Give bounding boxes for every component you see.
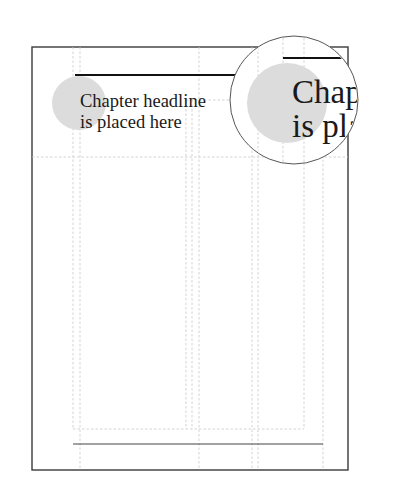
- magnified-headline-line-1: Chapte: [292, 74, 385, 110]
- magnified-headline-line-2: is place: [292, 108, 392, 144]
- headline-line-1: Chapter headline: [80, 91, 206, 111]
- layout-diagram: Chapter headline is placed here Chapte i…: [0, 0, 397, 487]
- headline-line-2: is placed here: [80, 112, 182, 132]
- magnifier: Chapte is place: [230, 20, 392, 182]
